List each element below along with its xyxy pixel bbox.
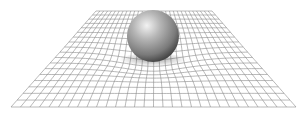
spacetime-illustration — [0, 0, 304, 121]
sphere — [127, 10, 179, 62]
